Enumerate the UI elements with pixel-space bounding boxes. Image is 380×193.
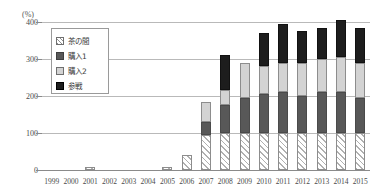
legend-item-chanoma: 茶の間 bbox=[56, 33, 105, 48]
bar-segment-kounyu2-2015 bbox=[355, 63, 365, 98]
x-tick-label-2006: 2006 bbox=[179, 177, 194, 186]
bar-segment-chanoma-2015 bbox=[355, 133, 365, 170]
bar-segment-sansen-2008 bbox=[220, 55, 230, 90]
bar-2009 bbox=[240, 63, 250, 170]
bar-segment-chanoma-2010 bbox=[259, 133, 269, 170]
bar-segment-kounyu1-2008 bbox=[220, 105, 230, 133]
bar-2015 bbox=[355, 28, 365, 170]
bar-segment-sansen-2013 bbox=[317, 28, 327, 59]
bar-segment-chanoma-2011 bbox=[278, 133, 288, 170]
bar-segment-kounyu1-2014 bbox=[336, 92, 346, 133]
x-axis: 1999200020012002200320042005200620072008… bbox=[42, 171, 370, 193]
bar-segment-chanoma-2014 bbox=[336, 133, 346, 170]
bar-2011 bbox=[278, 24, 288, 170]
bar-2013 bbox=[317, 28, 327, 170]
bar-2006 bbox=[182, 155, 192, 170]
dark-gray-swatch-icon bbox=[56, 52, 64, 60]
bar-segment-chanoma-2005 bbox=[162, 167, 172, 170]
bar-2012 bbox=[297, 31, 307, 170]
bar-2014 bbox=[336, 20, 346, 170]
hatched-swatch-icon bbox=[56, 37, 64, 45]
x-tick-label-2005: 2005 bbox=[160, 177, 175, 186]
bar-segment-chanoma-2013 bbox=[317, 133, 327, 170]
x-tick-label-2010: 2010 bbox=[256, 177, 271, 186]
bar-segment-kounyu1-2013 bbox=[317, 92, 327, 133]
legend-label-sansen: 参戦 bbox=[68, 80, 82, 91]
legend-item-kounyu1: 購入1 bbox=[56, 48, 105, 63]
bar-segment-kounyu2-2012 bbox=[297, 63, 307, 96]
bar-segment-sansen-2015 bbox=[355, 28, 365, 63]
bar-segment-chanoma-2006 bbox=[182, 155, 192, 170]
bar-segment-sansen-2012 bbox=[297, 31, 307, 62]
x-tick-label-2014: 2014 bbox=[334, 177, 349, 186]
bar-segment-kounyu1-2010 bbox=[259, 94, 269, 133]
bar-segment-kounyu2-2008 bbox=[220, 90, 230, 105]
legend-label-kounyu1: 購入1 bbox=[68, 50, 87, 61]
bar-2007 bbox=[201, 102, 211, 170]
bar-segment-chanoma-2008 bbox=[220, 133, 230, 170]
x-tick-label-2015: 2015 bbox=[353, 177, 368, 186]
y-tick-label-400: 400 bbox=[0, 18, 38, 27]
bar-segment-kounyu2-2013 bbox=[317, 59, 327, 92]
x-tick-label-2011: 2011 bbox=[276, 177, 291, 186]
x-tick-label-2000: 2000 bbox=[63, 177, 78, 186]
legend-item-sansen: 参戦 bbox=[56, 78, 105, 93]
bar-segment-kounyu2-2010 bbox=[259, 66, 269, 94]
bar-2005 bbox=[162, 167, 172, 170]
legend-label-kounyu2: 購入2 bbox=[68, 65, 87, 76]
bar-segment-kounyu1-2009 bbox=[240, 98, 250, 133]
bar-segment-kounyu2-2011 bbox=[278, 63, 288, 93]
stacked-bar-chart: (%) 400 300 200 100 0 199920002001200220… bbox=[0, 0, 380, 193]
bar-segment-kounyu1-2015 bbox=[355, 98, 365, 133]
y-tick-label-200: 200 bbox=[0, 92, 38, 101]
bar-segment-kounyu2-2014 bbox=[336, 57, 346, 92]
y-tick-label-300: 300 bbox=[0, 55, 38, 64]
bar-segment-kounyu1-2012 bbox=[297, 96, 307, 133]
x-tick-label-2009: 2009 bbox=[237, 177, 252, 186]
bar-segment-chanoma-2009 bbox=[240, 133, 250, 170]
bar-segment-kounyu2-2007 bbox=[201, 102, 211, 122]
black-swatch-icon bbox=[56, 82, 64, 90]
x-tick-label-2003: 2003 bbox=[121, 177, 136, 186]
bar-2010 bbox=[259, 33, 269, 170]
x-tick-label-2008: 2008 bbox=[218, 177, 233, 186]
x-tick-label-2002: 2002 bbox=[102, 177, 117, 186]
x-tick-label-2004: 2004 bbox=[141, 177, 156, 186]
x-tick-label-2012: 2012 bbox=[295, 177, 310, 186]
bar-segment-kounyu1-2011 bbox=[278, 92, 288, 133]
light-gray-swatch-icon bbox=[56, 67, 64, 75]
bar-segment-kounyu2-2009 bbox=[240, 63, 250, 98]
x-tick-label-2001: 2001 bbox=[83, 177, 98, 186]
bar-segment-chanoma-2012 bbox=[297, 133, 307, 170]
bar-segment-chanoma-2007 bbox=[201, 135, 211, 170]
x-tick-label-2007: 2007 bbox=[199, 177, 214, 186]
bar-2008 bbox=[220, 55, 230, 170]
legend-item-kounyu2: 購入2 bbox=[56, 63, 105, 78]
y-tick-label-0: 0 bbox=[0, 166, 38, 175]
x-tick-label-2013: 2013 bbox=[314, 177, 329, 186]
bar-segment-kounyu1-2007 bbox=[201, 122, 211, 135]
bar-segment-sansen-2014 bbox=[336, 20, 346, 57]
legend-label-chanoma: 茶の間 bbox=[68, 35, 89, 46]
bar-2001 bbox=[85, 167, 95, 170]
y-tick-label-100: 100 bbox=[0, 129, 38, 138]
bar-segment-chanoma-2001 bbox=[85, 167, 95, 170]
x-tick-label-1999: 1999 bbox=[44, 177, 59, 186]
bar-segment-sansen-2011 bbox=[278, 24, 288, 63]
chart-legend: 茶の間 購入1 購入2 参戦 bbox=[51, 28, 109, 94]
bar-segment-sansen-2010 bbox=[259, 33, 269, 66]
